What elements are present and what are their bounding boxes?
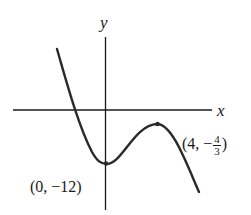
min-point-label: (0, −12): [30, 179, 82, 195]
local-max-point: [155, 122, 159, 126]
x-axis-label: x: [217, 102, 225, 119]
max-point-suffix: ): [222, 135, 227, 152]
local-min-point: [104, 161, 108, 165]
cubic-curve: [57, 49, 199, 192]
max-point-prefix: (4, −: [182, 135, 212, 152]
max-point-fraction: 43: [213, 134, 221, 157]
fraction-denominator: 3: [213, 146, 221, 157]
y-axis-label: y: [100, 14, 108, 31]
max-point-label: (4, −43): [182, 134, 227, 157]
